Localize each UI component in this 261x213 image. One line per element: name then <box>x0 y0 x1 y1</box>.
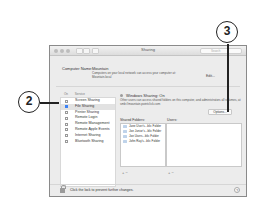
users-list <box>166 123 242 167</box>
title-bar: Sharing Search <box>50 46 246 56</box>
search-input[interactable]: Search <box>200 48 242 54</box>
lock-text: Click the lock to prevent further change… <box>70 188 133 192</box>
folder-icon <box>123 125 127 128</box>
callout-2: 2 <box>18 91 40 113</box>
computer-name-description: Computers on your local network can acce… <box>92 72 184 79</box>
users-label: Users: <box>167 118 177 122</box>
checkbox[interactable] <box>65 117 68 120</box>
computer-name-label: Computer Name: <box>62 66 92 71</box>
checkbox[interactable] <box>65 140 68 143</box>
folder-icon <box>123 140 127 143</box>
callout-2-line <box>40 102 59 104</box>
callout-3-line <box>227 44 229 112</box>
header-on: On <box>64 92 68 96</box>
status-description: Other users can access shared folders on… <box>120 99 242 106</box>
shared-folder-item[interactable]: John Ray's...blic Folder <box>121 139 165 144</box>
service-item-bluetooth-sharing[interactable]: Bluetooth Sharing <box>61 139 115 145</box>
sharing-window: Sharing Search Computer Name: Mountain C… <box>49 45 247 197</box>
divider <box>56 86 240 87</box>
edit-button[interactable]: Edit... <box>206 74 215 78</box>
footer-divider <box>50 184 246 185</box>
checkbox[interactable] <box>65 111 68 114</box>
status-dot-icon <box>120 94 123 97</box>
checkbox[interactable] <box>65 123 68 126</box>
add-remove-user-buttons[interactable]: + − <box>168 170 174 175</box>
header-service: Service <box>75 92 85 96</box>
checkbox[interactable] <box>65 100 68 103</box>
shared-folders-list: Jane User's...blic Folder Joe Junior's..… <box>120 123 166 167</box>
checkbox[interactable] <box>65 134 68 137</box>
folder-icon <box>123 135 127 138</box>
services-header: On Service <box>64 92 91 96</box>
help-button[interactable]: ? <box>234 187 240 193</box>
checkbox[interactable] <box>65 105 68 108</box>
lock-icon[interactable] <box>60 188 65 193</box>
callout-3: 3 <box>216 21 238 43</box>
folder-icon <box>123 130 127 133</box>
services-list: Screen Sharing File Sharing Printer Shar… <box>60 97 116 187</box>
checkbox[interactable] <box>65 128 68 131</box>
shared-folders-label: Shared Folders: <box>120 118 145 122</box>
add-remove-folder-buttons[interactable]: + − <box>122 170 128 175</box>
